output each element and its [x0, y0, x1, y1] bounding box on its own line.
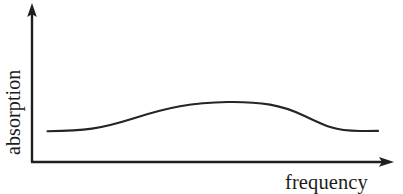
absorption-frequency-figure: frequency absorption	[0, 0, 403, 194]
y-axis-label: absorption	[2, 70, 25, 155]
plot-canvas: frequency absorption	[0, 0, 403, 194]
absorption-curve	[48, 102, 379, 131]
x-axis-label: frequency	[285, 171, 368, 194]
